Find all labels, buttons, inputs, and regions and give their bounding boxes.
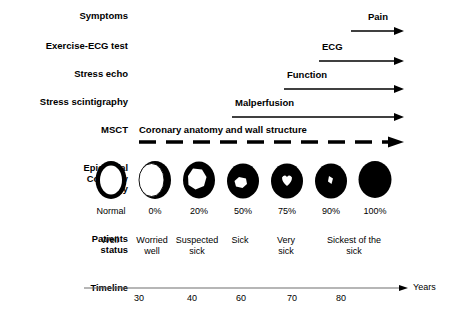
- patient-status-very-sick-line1: Very: [264, 235, 308, 246]
- arrow-msct-dashed: [138, 136, 406, 148]
- arrow-caption-pain: Pain: [368, 11, 388, 22]
- patients-status-line-2: status: [0, 245, 128, 256]
- timeline-tick-80: 80: [326, 293, 356, 304]
- vessel-cross-section-normal: [88, 157, 134, 203]
- arrow-symptoms: [350, 25, 406, 37]
- arrow-caption-malperfusion: Malperfusion: [235, 97, 294, 108]
- modality-label-symptoms: Symptoms: [0, 10, 128, 21]
- modality-label-msct: MSCT: [0, 124, 128, 135]
- timeline-tick-70: 70: [277, 293, 307, 304]
- modality-label-exercise-ecg-test: Exercise-ECG test: [0, 40, 128, 51]
- timeline-tick-30: 30: [124, 293, 154, 304]
- arrow-stress-echo: [283, 83, 406, 95]
- patient-status-sick-line1: Sick: [218, 235, 262, 246]
- modality-label-stress-scintigraphy: Stress scintigraphy: [0, 96, 128, 107]
- vessel-cross-section-50: [220, 159, 266, 205]
- patient-status-sickest-line1: Sickest of the: [312, 235, 396, 246]
- stenosis-label-100: 100%: [343, 206, 407, 217]
- vessel-cross-section-90: [308, 159, 354, 205]
- arrow-exercise-ecg: [318, 55, 406, 67]
- timeline-tick-40: 40: [177, 293, 207, 304]
- arrow-stress-scintigraphy: [231, 111, 406, 123]
- patient-status-very-sick: Very sick: [264, 235, 308, 257]
- arrow-caption-ecg: ECG: [322, 41, 343, 52]
- patient-status-sick: Sick: [218, 235, 262, 246]
- modality-label-stress-echo: Stress echo: [0, 68, 128, 79]
- arrow-caption-coronary-anatomy: Coronary anatomy and wall structure: [139, 124, 307, 135]
- vessel-cross-section-75: [264, 159, 310, 205]
- patient-status-very-sick-line2: sick: [264, 246, 308, 257]
- arrow-caption-function: Function: [287, 69, 327, 80]
- vessel-cross-section-100: [352, 157, 398, 203]
- patient-status-suspected-sick-line2: sick: [168, 246, 226, 257]
- timeline-axis-label: Years: [413, 282, 436, 293]
- timeline-tick-60: 60: [226, 293, 256, 304]
- vessel-cross-section-20: [176, 157, 222, 203]
- patient-status-sickest-line2: sick: [312, 246, 396, 257]
- figure-canvas: Symptoms Pain Exercise-ECG test ECG Stre…: [0, 0, 456, 318]
- patient-status-sickest-of-the-sick: Sickest of the sick: [312, 235, 396, 257]
- vessel-cross-section-0: [132, 157, 178, 203]
